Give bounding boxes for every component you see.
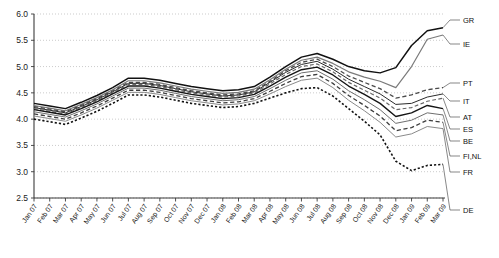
x-tick-label: Dec 08 [382, 202, 401, 224]
legend-leader-de [443, 164, 460, 210]
legend: GRIEPTITATESBEFI,NLFRDE [443, 16, 481, 215]
legend-label-be[interactable]: BE [463, 137, 473, 146]
legend-leader-it [443, 94, 460, 101]
legend-label-gr[interactable]: GR [463, 16, 475, 25]
x-tick-label: Jun 08 [288, 202, 306, 223]
y-tick-label: 6.0 [16, 9, 28, 19]
y-tick-label: 3.0 [16, 167, 28, 177]
x-tick-label: Mar 09 [429, 202, 447, 224]
legend-label-fr[interactable]: FR [463, 168, 474, 177]
legend-label-es[interactable]: ES [463, 125, 473, 134]
y-tick-label: 2.5 [16, 193, 28, 203]
legend-label-ie[interactable]: IE [463, 40, 470, 49]
legend-label-at[interactable]: AT [463, 113, 472, 122]
legend-label-de[interactable]: DE [463, 206, 473, 215]
x-tick-label: May 07 [82, 202, 102, 225]
x-tick-label: Sep 08 [334, 202, 353, 225]
y-tick-label: 3.5 [16, 140, 28, 150]
legend-leader-es [443, 109, 460, 129]
legend-leader-pt [443, 83, 460, 88]
x-tick-label: May 08 [271, 202, 291, 225]
legend-leader-gr [443, 20, 460, 28]
legend-label-fi-nl[interactable]: FI,NL [463, 152, 481, 161]
series-group [34, 28, 443, 171]
y-tick-label: 5.0 [16, 62, 28, 72]
legend-label-it[interactable]: IT [463, 97, 470, 106]
legend-label-pt[interactable]: PT [463, 79, 473, 88]
y-tick-label: 5.5 [16, 35, 28, 45]
y-tick-label: 4.5 [16, 88, 28, 98]
x-tick-label: Mar 08 [240, 202, 258, 224]
line-chart: 2.53.03.54.04.55.05.56.0Jan 07Feb 07Mar … [0, 0, 499, 258]
legend-leader-ie [443, 35, 460, 44]
chart-canvas: 2.53.03.54.04.55.05.56.0Jan 07Feb 07Mar … [0, 0, 499, 258]
legend-leader-be [443, 115, 460, 141]
x-tick-label: Sep 07 [146, 202, 165, 225]
x-tick-label: Dec 07 [193, 202, 212, 224]
x-tick-label: Jun 07 [99, 202, 117, 223]
legend-leader-fi-nl [443, 122, 460, 156]
y-tick-label: 4.0 [16, 114, 28, 124]
x-axis-labels: Jan 07Feb 07Mar 07Apr 07May 07Jun 07Jul … [21, 198, 448, 226]
series-line-fr [34, 78, 443, 137]
x-tick-label: Mar 07 [52, 202, 70, 224]
